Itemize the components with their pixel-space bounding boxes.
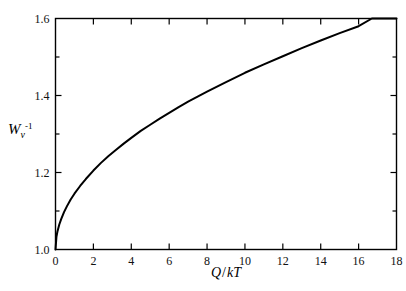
y-axis-title-superscript: -1 <box>25 121 33 131</box>
y-tick-label: 1.4 <box>35 90 50 102</box>
plot-frame-box <box>56 19 397 250</box>
plot-area-svg <box>0 0 406 291</box>
y-axis-title-base: W <box>8 121 21 137</box>
x-tick-label: 4 <box>128 255 134 267</box>
data-series-curve <box>56 19 397 250</box>
y-tick-label: 1.2 <box>35 167 50 179</box>
x-tick-label: 2 <box>90 255 96 267</box>
x-tick-label: 14 <box>315 255 327 267</box>
x-axis-title-denominator: kT <box>227 265 241 280</box>
x-tick-label: 16 <box>353 255 365 267</box>
x-axis-title-numerator: Q <box>211 265 221 280</box>
y-axis-title: Wv-1 <box>8 122 32 140</box>
x-tick-label: 18 <box>391 255 403 267</box>
y-tick-label: 1.6 <box>35 13 50 25</box>
axes-frame <box>56 19 397 250</box>
y-tick-label: 1.0 <box>35 244 50 256</box>
figure-chart: 024681012141618 1.01.21.41.6 Q/kT Wv-1 <box>0 0 406 291</box>
x-tick-label: 12 <box>277 255 289 267</box>
x-tick-label: 8 <box>204 255 210 267</box>
x-tick-label: 0 <box>53 255 59 267</box>
x-tick-label: 6 <box>166 255 172 267</box>
axis-ticks <box>56 19 397 250</box>
x-axis-title: Q/kT <box>211 266 241 280</box>
